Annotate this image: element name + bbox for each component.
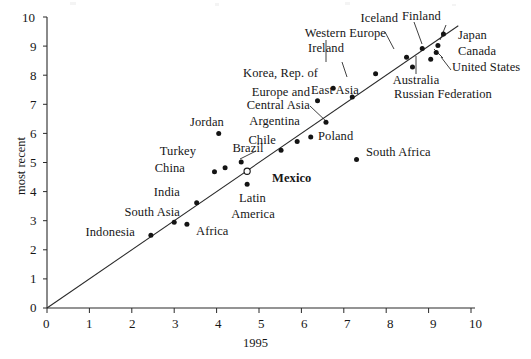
point-label-china: China (130, 162, 185, 176)
xtick-0: 0 (43, 316, 50, 332)
point-label-central-asia: Central Asia (228, 99, 310, 113)
ytick-6: 6 (30, 126, 37, 142)
point-label-south-asia: South Asia (98, 206, 180, 220)
point-label-east-asia: East Asia (300, 84, 370, 98)
xtick-4: 4 (215, 316, 222, 332)
data-point-markers (148, 31, 446, 237)
point-label-africa: Africa (196, 225, 229, 239)
point-label-turkey: Turkey (138, 145, 196, 159)
ytick-4: 4 (30, 184, 37, 200)
point-label-poland: Poland (318, 130, 353, 144)
point-label-western-europe: Western Europe (276, 27, 386, 41)
xtick-9: 9 (430, 316, 437, 332)
point-label-latin: Latin (225, 192, 280, 206)
xtick-6: 6 (301, 316, 308, 332)
ytick-9: 9 (30, 39, 37, 55)
xtick-10: 10 (469, 316, 482, 332)
ytick-1: 1 (30, 271, 37, 287)
point-label-australia: Australia (385, 74, 447, 88)
x-tick-marks (47, 308, 471, 313)
point-label-america: America (222, 208, 284, 222)
point-label-mexico: Mexico (272, 172, 311, 186)
x-axis-title: 1995 (243, 336, 268, 351)
xtick-7: 7 (344, 316, 351, 332)
ytick-3: 3 (30, 213, 37, 229)
xtick-5: 5 (258, 316, 265, 332)
xtick-1: 1 (86, 316, 93, 332)
ytick-10: 10 (22, 10, 35, 26)
point-label-argentina: Argentina (228, 115, 300, 129)
xtick-3: 3 (172, 316, 179, 332)
point-label-japan: Japan (458, 29, 487, 43)
ytick-5: 5 (30, 155, 37, 171)
point-label-finland: Finland (402, 10, 441, 24)
ytick-2: 2 (30, 242, 37, 258)
xtick-8: 8 (387, 316, 394, 332)
point-label-canada: Canada (458, 45, 496, 59)
scatter-plot (0, 0, 531, 359)
point-label-indonesia: Indonesia (60, 226, 135, 240)
xtick-2: 2 (129, 316, 136, 332)
ytick-8: 8 (30, 68, 37, 84)
point-label-chile: Chile (228, 134, 276, 148)
ytick-0: 0 (30, 300, 37, 316)
point-label-india: India (130, 186, 180, 200)
y-axis-title: most recent (14, 137, 29, 195)
point-label-korea: Korea, Rep. of (222, 67, 318, 81)
point-label-russia: Russian Federation (394, 88, 492, 102)
point-label-iceland: Iceland (340, 12, 398, 26)
point-label-south-africa: South Africa (366, 146, 431, 160)
point-label-ireland: Ireland (288, 42, 364, 56)
y-tick-marks (43, 17, 47, 308)
ytick-7: 7 (30, 97, 37, 113)
point-label-united-states: United States (452, 61, 520, 75)
